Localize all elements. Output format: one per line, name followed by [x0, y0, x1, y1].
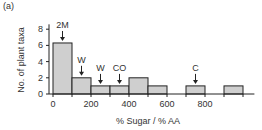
x-tick-label: 0	[50, 99, 55, 109]
arrowhead-icon	[193, 80, 198, 84]
annotation-label: W	[77, 55, 86, 65]
histogram-bar	[53, 43, 72, 94]
histogram-bar	[110, 86, 129, 94]
annotation-label: C	[192, 63, 199, 73]
arrowhead-icon	[98, 80, 103, 84]
x-axis-label: % Sugar / % AA	[116, 116, 180, 126]
y-axis-label: No. of plant taxa	[16, 27, 26, 93]
annotation-label: 2M	[56, 20, 69, 30]
y-tick-label: 4	[38, 57, 43, 67]
x-tick-label: 600	[159, 99, 174, 109]
y-tick-label: 2	[38, 73, 43, 83]
y-tick-label: 0	[38, 89, 43, 99]
histogram-bar	[72, 78, 91, 94]
x-tick-label: 200	[83, 99, 98, 109]
annotation-label: CO	[113, 63, 127, 73]
histogram-bar	[224, 86, 243, 94]
histogram-bar	[186, 86, 205, 94]
x-tick-label: 400	[121, 99, 136, 109]
x-tick-label: 800	[197, 99, 212, 109]
histogram-bar	[148, 86, 167, 94]
arrowhead-icon	[60, 37, 65, 41]
histogram-bar	[129, 78, 148, 94]
arrowhead-icon	[79, 72, 84, 76]
histogram-bar	[91, 86, 110, 94]
y-tick-label: 6	[38, 40, 43, 50]
arrowhead-icon	[117, 80, 122, 84]
annotation-label: W	[96, 63, 105, 73]
histogram-chart: 024680200400600800% Sugar / % AANo. of p…	[0, 0, 262, 130]
y-tick-label: 8	[38, 24, 43, 34]
